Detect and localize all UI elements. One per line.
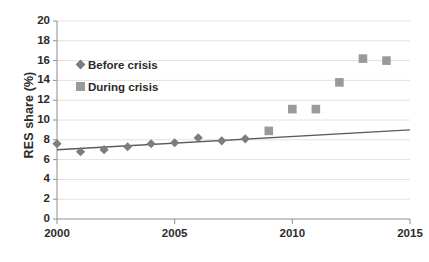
data-point-square [335,78,344,87]
data-point-square [359,54,368,63]
data-point-square [265,127,274,136]
legend-item-label: During crisis [88,81,158,93]
data-point-square [288,105,297,114]
res-share-scatter-chart: RES share (%) 20181614121086420 20002005… [0,0,429,262]
x-axis-tick-labels: 2000200520102015 [0,228,429,248]
x-axis-tick-label: 2015 [380,228,429,240]
data-point-diamond [217,136,226,145]
x-axis-tick-label: 2010 [262,228,322,240]
square-marker-icon [76,82,85,91]
data-point-square [382,56,391,65]
chart-legend: Before crisis During crisis [76,56,206,100]
diamond-marker-icon [76,60,86,70]
legend-item: Before crisis [76,56,206,73]
data-point-diamond [52,139,61,148]
data-point-diamond [123,142,132,151]
legend-item-label: Before crisis [88,59,158,71]
data-point-diamond [241,134,250,143]
x-axis-tick-label: 2005 [145,228,205,240]
plot-area [0,0,429,262]
data-point-diamond [147,139,156,148]
legend-item: During crisis [76,78,206,95]
data-point-square [312,105,321,114]
x-axis-tick-label: 2000 [27,228,87,240]
